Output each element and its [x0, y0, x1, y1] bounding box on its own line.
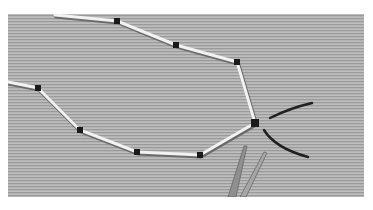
straw-chain-illustration: [8, 14, 364, 197]
joint-connectors: [35, 18, 259, 158]
scissors-icon: [228, 146, 267, 197]
photo: [8, 14, 364, 197]
wire-pieces: [264, 103, 312, 157]
